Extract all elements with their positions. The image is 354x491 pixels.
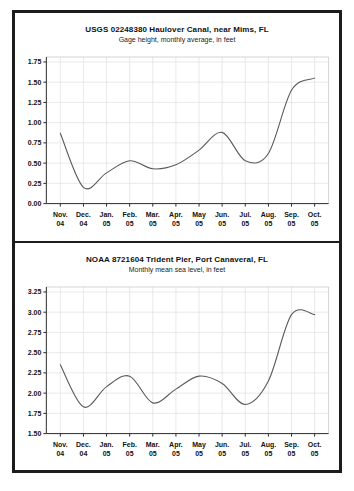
svg-text:2.75: 2.75 [27,328,41,335]
svg-text:05: 05 [172,449,180,456]
svg-text:05: 05 [195,220,203,227]
svg-text:1.50: 1.50 [27,430,41,437]
svg-text:04: 04 [56,449,64,456]
svg-text:Mar.: Mar. [145,211,159,218]
svg-text:05: 05 [287,449,295,456]
svg-text:1.25: 1.25 [27,99,41,106]
svg-text:Sep.: Sep. [284,211,299,219]
noaa-chart-subtitle: Monthly mean sea level, in feet [129,266,226,273]
svg-text:05: 05 [218,220,226,227]
svg-text:05: 05 [241,449,249,456]
svg-text:Jan.: Jan. [99,211,113,218]
svg-text:Aug.: Aug. [260,211,276,219]
svg-text:Jun.: Jun. [214,440,228,447]
svg-text:05: 05 [172,220,180,227]
svg-text:Dec.: Dec. [76,211,91,218]
svg-text:May: May [192,211,206,219]
svg-text:Nov.: Nov. [53,440,68,447]
svg-text:05: 05 [195,449,203,456]
svg-text:05: 05 [102,220,110,227]
svg-text:2.00: 2.00 [27,389,41,396]
svg-text:04: 04 [79,220,87,227]
svg-text:Nov.: Nov. [53,211,68,218]
svg-text:05: 05 [218,449,226,456]
svg-text:05: 05 [148,220,156,227]
svg-text:05: 05 [125,449,133,456]
usgs-gage-height-line-chart: 0.000.250.500.751.001.251.501.75Nov.04De… [16,49,339,241]
svg-text:05: 05 [310,220,318,227]
svg-text:05: 05 [102,449,110,456]
svg-text:04: 04 [79,449,87,456]
svg-text:May: May [192,440,206,448]
svg-text:Oct.: Oct. [307,211,321,218]
usgs-chart-subtitle: Gage height, monthly average, in feet [119,36,236,43]
svg-text:05: 05 [287,220,295,227]
svg-text:0.75: 0.75 [27,139,41,146]
svg-text:1.75: 1.75 [27,58,41,65]
svg-text:Feb.: Feb. [122,211,136,218]
svg-text:05: 05 [125,220,133,227]
svg-text:1.00: 1.00 [27,119,41,126]
svg-text:Dec.: Dec. [76,440,91,447]
svg-text:2.25: 2.25 [27,369,41,376]
svg-text:Jul.: Jul. [239,211,251,218]
svg-text:3.25: 3.25 [27,288,41,295]
svg-text:05: 05 [241,220,249,227]
svg-text:05: 05 [148,449,156,456]
svg-text:Feb.: Feb. [122,440,136,447]
svg-text:0.00: 0.00 [27,200,41,207]
svg-text:05: 05 [264,449,272,456]
svg-text:Sep.: Sep. [284,440,299,448]
svg-text:2.50: 2.50 [27,349,41,356]
svg-text:1.50: 1.50 [27,79,41,86]
svg-text:Apr.: Apr. [169,211,183,219]
svg-text:Mar.: Mar. [145,440,159,447]
svg-text:Aug.: Aug. [260,440,276,448]
svg-text:05: 05 [310,449,318,456]
svg-text:Jul.: Jul. [239,440,251,447]
svg-text:0.25: 0.25 [27,180,41,187]
svg-text:Apr.: Apr. [169,440,183,448]
report-frame: USGS 02248380 Haulover Canal, near Mims,… [12,10,342,473]
svg-text:0.50: 0.50 [27,160,41,167]
svg-text:3.00: 3.00 [27,308,41,315]
noaa-chart-panel: NOAA 8721604 Trident Pier, Port Canavera… [15,243,339,471]
usgs-chart-title: USGS 02248380 Haulover Canal, near Mims,… [85,25,269,34]
svg-text:05: 05 [264,220,272,227]
usgs-chart-panel: USGS 02248380 Haulover Canal, near Mims,… [15,13,339,241]
svg-text:Jun.: Jun. [214,211,228,218]
noaa-sea-level-line-chart: 1.501.752.002.252.502.753.003.25Nov.04De… [16,279,339,471]
svg-text:04: 04 [56,220,64,227]
svg-text:Oct.: Oct. [307,440,321,447]
svg-text:1.75: 1.75 [27,409,41,416]
noaa-chart-title: NOAA 8721604 Trident Pier, Port Canavera… [86,255,268,264]
svg-text:Jan.: Jan. [99,440,113,447]
